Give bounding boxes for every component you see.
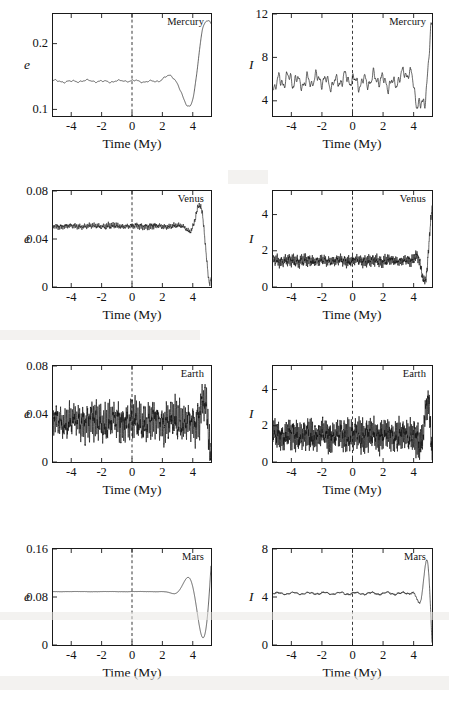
y-axis-label-mercury-inclination: I xyxy=(249,58,254,72)
xtick-label-mars-inclination-4: 4 xyxy=(394,649,434,662)
ytick-label-venus-inclination-0: 0 xyxy=(0,281,268,294)
series-canvas-venus-inclination xyxy=(273,191,432,287)
series-canvas-earth-eccentricity xyxy=(53,366,211,462)
panel-annotation-venus-inclination: Venus xyxy=(0,193,426,204)
plot-area-earth-inclination xyxy=(272,365,433,463)
panel-annotation-earth-inclination: Earth xyxy=(0,368,426,379)
xtick-label-earth-inclination-4: 4 xyxy=(394,466,434,479)
ytick-label-mercury-inclination-0: 4 xyxy=(0,94,268,107)
ytick-label-venus-inclination-2: 4 xyxy=(0,208,268,221)
xtick-label-mercury-inclination-4: 4 xyxy=(394,120,434,133)
scan-artifact-2 xyxy=(228,170,268,184)
x-axis-label-mars-inclination: Time (My) xyxy=(302,666,402,680)
xtick-label-mercury-eccentricity-4: 4 xyxy=(173,120,213,133)
y-tickmarks-venus-inclination xyxy=(273,215,277,287)
y-tickmarks-mars-inclination xyxy=(273,549,277,645)
x-axis-label-earth-eccentricity: Time (My) xyxy=(82,483,182,497)
y-axis-label-mars-inclination: I xyxy=(249,590,254,604)
plot-area-mars-inclination xyxy=(272,548,433,646)
data-trace-venus-inclination xyxy=(273,205,432,284)
ytick-label-mars-inclination-0: 0 xyxy=(0,639,268,652)
x-axis-label-mars-eccentricity: Time (My) xyxy=(82,666,182,680)
plot-area-venus-eccentricity xyxy=(52,190,212,288)
scan-artifact-3 xyxy=(0,330,200,340)
series-canvas-mars-inclination xyxy=(273,549,432,645)
x-axis-label-earth-inclination: Time (My) xyxy=(302,483,402,497)
ytick-label-earth-inclination-2: 4 xyxy=(0,383,268,396)
figure-canvas: Mercury0.10.2-4-2024eTime (My)Mercury481… xyxy=(0,0,449,701)
ytick-label-mercury-eccentricity-1: 0.2 xyxy=(0,37,48,50)
x-axis-label-venus-eccentricity: Time (My) xyxy=(82,308,182,322)
y-axis-label-venus-inclination: I xyxy=(249,232,254,246)
ytick-label-venus-inclination-1: 2 xyxy=(0,244,268,257)
series-canvas-earth-inclination xyxy=(273,366,432,462)
plot-area-earth-eccentricity xyxy=(52,365,212,463)
plot-area-mercury-inclination xyxy=(272,13,433,117)
series-canvas-mercury-inclination xyxy=(273,14,432,116)
ytick-label-earth-inclination-1: 2 xyxy=(0,419,268,432)
ytick-label-earth-inclination-0: 0 xyxy=(0,456,268,469)
ytick-label-mercury-inclination-2: 12 xyxy=(0,8,268,21)
y-tickmarks-venus-eccentricity xyxy=(53,191,57,287)
y-axis-label-earth-inclination: I xyxy=(249,407,254,421)
x-tickmarks-venus-eccentricity xyxy=(71,191,193,287)
x-axis-label-venus-inclination: Time (My) xyxy=(302,308,402,322)
ytick-label-mercury-inclination-1: 8 xyxy=(0,51,268,64)
ytick-label-mars-inclination-2: 8 xyxy=(0,543,268,556)
xtick-label-venus-inclination-4: 4 xyxy=(394,291,434,304)
x-axis-label-mercury-inclination: Time (My) xyxy=(302,137,402,151)
x-axis-label-mercury-eccentricity: Time (My) xyxy=(82,137,182,151)
x-tickmarks-venus-inclination xyxy=(291,191,413,287)
ytick-label-mars-inclination-1: 4 xyxy=(0,591,268,604)
series-canvas-venus-eccentricity xyxy=(53,191,211,287)
x-tickmarks-mars-inclination xyxy=(291,549,413,645)
plot-area-venus-inclination xyxy=(272,190,433,288)
